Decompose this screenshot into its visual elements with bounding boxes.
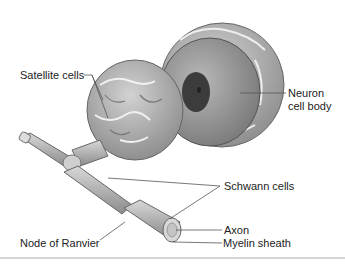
- nucleus: [182, 72, 210, 112]
- bottom-divider: [0, 257, 345, 259]
- label-neuron-line1: Neuron: [288, 87, 331, 100]
- neuron-illustration: [0, 0, 345, 265]
- label-myelin-sheath: Myelin sheath: [223, 237, 291, 250]
- label-node-of-ranvier: Node of Ranvier: [20, 237, 100, 250]
- label-neuron-line2: cell body: [288, 100, 331, 113]
- label-axon: Axon: [224, 224, 249, 237]
- label-satellite-cells: Satellite cells: [20, 69, 84, 82]
- label-neuron-cell-body: Neuron cell body: [288, 87, 331, 113]
- label-schwann-cells: Schwann cells: [224, 180, 294, 193]
